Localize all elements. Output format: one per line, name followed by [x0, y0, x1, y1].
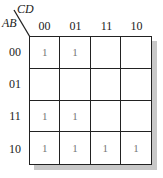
col-label-00: 00 — [29, 19, 60, 34]
cell-r2-c2 — [91, 101, 121, 133]
row-label-01: 01 — [4, 68, 26, 100]
cell-r3-c1: 1 — [60, 132, 90, 164]
cell-r1-c1 — [60, 69, 90, 101]
cell-r3-c3: 1 — [121, 132, 151, 164]
col-label-10: 10 — [121, 19, 152, 34]
col-variable-label: CD — [17, 2, 34, 17]
row-variable-label: AB — [2, 16, 17, 31]
cell-r0-c0: 1 — [30, 37, 60, 69]
row-label-00: 00 — [4, 36, 26, 68]
cell-r3-c2: 1 — [91, 132, 121, 164]
cell-r0-c2 — [91, 37, 121, 69]
cell-r3-c0: 1 — [30, 132, 60, 164]
cell-r2-c3 — [121, 101, 151, 133]
kmap-grid: 1 1 1 1 1 1 1 1 — [29, 36, 152, 165]
col-label-11: 11 — [91, 19, 122, 34]
row-label-10: 10 — [4, 133, 26, 165]
row-label-11: 11 — [4, 100, 26, 132]
cell-r1-c2 — [91, 69, 121, 101]
cell-r0-c1: 1 — [60, 37, 90, 69]
cell-r2-c0: 1 — [30, 101, 60, 133]
cell-r0-c3 — [121, 37, 151, 69]
cell-r2-c1: 1 — [60, 101, 90, 133]
cell-r1-c0 — [30, 69, 60, 101]
cell-r1-c3 — [121, 69, 151, 101]
col-label-01: 01 — [60, 19, 91, 34]
